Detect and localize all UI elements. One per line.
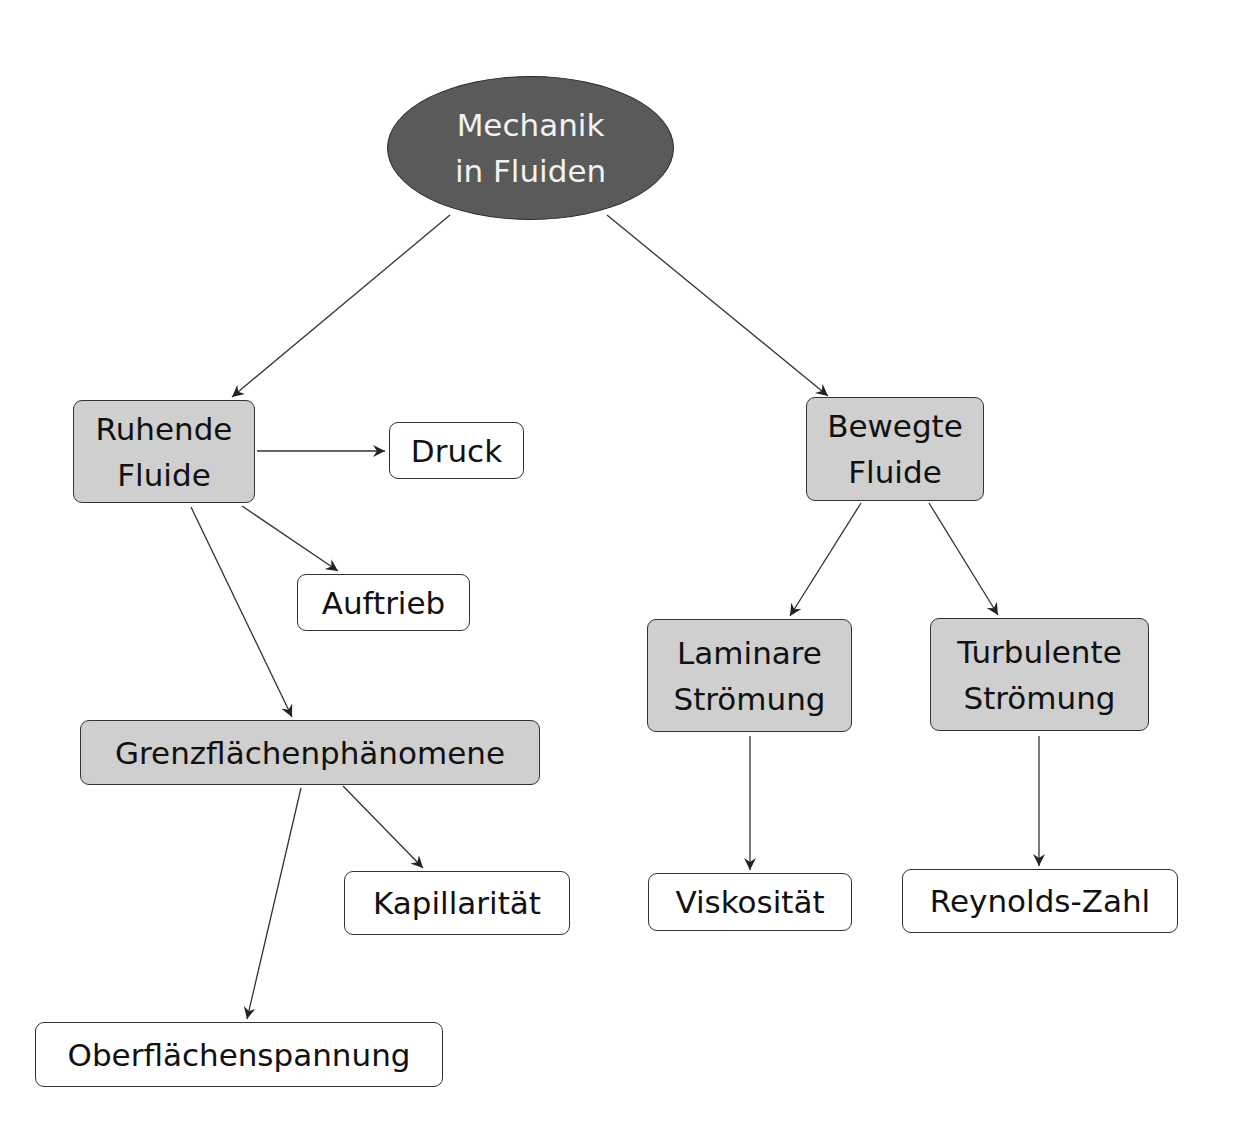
node-auftrieb: Auftrieb — [297, 574, 470, 631]
node-turbulente-stroemung: Turbulente Strömung — [930, 618, 1149, 731]
node-ruhende-fluide: Ruhende Fluide — [73, 400, 255, 503]
edge-bewegte-turbulent — [929, 503, 998, 615]
node-mechanik-in-fluiden: Mechanik in Fluiden — [387, 76, 674, 220]
node-druck: Druck — [389, 422, 524, 479]
edge-root-bewegte — [607, 215, 828, 396]
node-oberflaechenspannung: Oberflächenspannung — [35, 1022, 443, 1087]
node-grenzflaechenphaenomene: Grenzflächenphänomene — [80, 720, 540, 785]
node-laminare-stroemung: Laminare Strömung — [647, 619, 852, 732]
edge-ruhende-grenz — [191, 507, 292, 717]
edge-root-ruhende — [232, 215, 450, 397]
node-kapillaritaet: Kapillarität — [344, 871, 570, 935]
node-viskositaet: Viskosität — [648, 873, 852, 931]
edge-ruhende-auftrieb — [242, 506, 338, 571]
edge-grenz-kapillar — [343, 786, 423, 868]
node-bewegte-fluide: Bewegte Fluide — [806, 397, 984, 501]
node-reynolds-zahl: Reynolds-Zahl — [902, 869, 1178, 933]
concept-map: Mechanik in Fluiden Ruhende Fluide Druck… — [0, 0, 1238, 1128]
edge-bewegte-laminar — [790, 503, 861, 616]
edge-grenz-oberfl — [247, 788, 301, 1019]
